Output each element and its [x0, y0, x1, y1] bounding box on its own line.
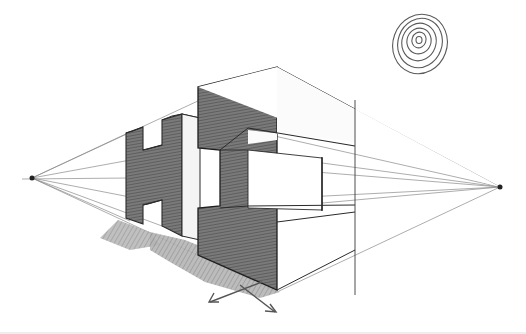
spiral-sun-icon: [384, 7, 455, 82]
letter-h: [126, 114, 200, 240]
right-vanishing-point: [498, 185, 503, 190]
left-vanishing-point: [30, 176, 35, 181]
perspective-sketch: [0, 0, 526, 334]
